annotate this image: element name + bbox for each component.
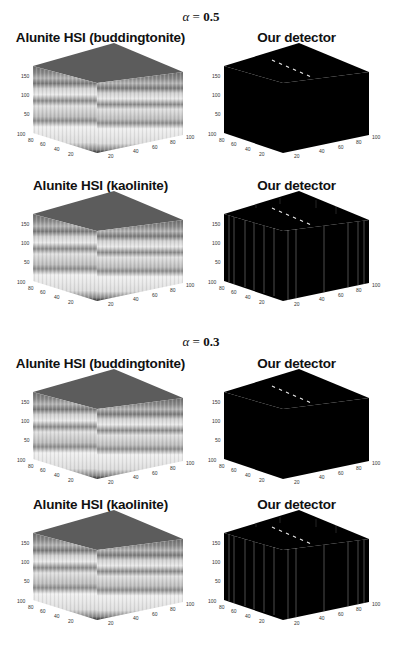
alpha-equals: =	[189, 9, 203, 24]
alpha-value: 0.5	[203, 9, 219, 24]
hsi-cube-plot	[0, 30, 201, 190]
detector-cube-plot	[196, 356, 397, 516]
alpha-0.5-heading: α = 0.5	[0, 9, 402, 25]
panel-detector-a05-bottom: Our detector	[196, 178, 397, 338]
panel-hsi-buddingtonite-a05: Alunite HSI (buddingtonite)	[0, 30, 201, 190]
alpha-0.3-heading: α = 0.3	[0, 334, 402, 350]
panel-detector-a03-bottom: Our detector	[196, 497, 397, 657]
detector-cube-plot-streaks	[196, 497, 397, 657]
hsi-cube-plot	[0, 497, 201, 657]
hsi-cube-plot	[0, 178, 201, 338]
alpha-equals: =	[189, 334, 203, 349]
panel-hsi-kaolinite-a05: Alunite HSI (kaolinite)	[0, 178, 201, 338]
alpha-value: 0.3	[203, 334, 219, 349]
detector-cube-plot	[196, 30, 397, 190]
hsi-cube-plot	[0, 356, 201, 516]
panel-hsi-kaolinite-a03: Alunite HSI (kaolinite)	[0, 497, 201, 657]
detector-cube-plot-streaks	[196, 178, 397, 338]
panel-detector-a03-top: Our detector	[196, 356, 397, 516]
panel-detector-a05-top: Our detector	[196, 30, 397, 190]
panel-hsi-buddingtonite-a03: Alunite HSI (buddingtonite)	[0, 356, 201, 516]
